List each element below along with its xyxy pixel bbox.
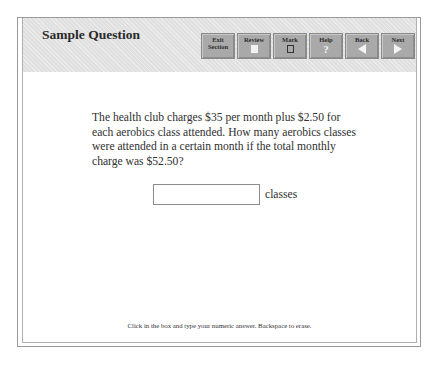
answer-row: classes [153, 184, 297, 205]
help-label: Help [319, 36, 332, 43]
next-label: Next [392, 36, 405, 43]
help-button[interactable]: Help ? [309, 33, 343, 59]
page-title: Sample Question [42, 27, 140, 43]
exit-label-line2: Section [208, 43, 228, 50]
mark-label: Mark [282, 36, 298, 43]
numeric-answer-input[interactable] [153, 184, 260, 205]
header-bar: Sample Question Exit Section Review Mark… [23, 18, 416, 72]
back-label: Back [355, 36, 369, 43]
next-button[interactable]: Next [381, 33, 415, 59]
arrow-right-icon [394, 44, 402, 54]
mark-button[interactable]: Mark [273, 33, 307, 59]
instructions-text: Click in the box and type your numeric a… [23, 322, 416, 329]
document-icon [251, 44, 258, 54]
arrow-left-icon [358, 44, 366, 54]
review-button[interactable]: Review [237, 33, 271, 59]
review-label: Review [244, 36, 264, 43]
question-window: Sample Question Exit Section Review Mark… [17, 17, 421, 347]
exit-section-button[interactable]: Exit Section [201, 33, 235, 59]
answer-unit-label: classes [265, 188, 297, 201]
back-button[interactable]: Back [345, 33, 379, 59]
toolbar: Exit Section Review Mark Help ? Back [201, 33, 415, 59]
exit-label-line1: Exit [212, 36, 224, 43]
question-frame: Sample Question Exit Section Review Mark… [22, 18, 417, 343]
question-icon: ? [323, 44, 329, 54]
checkbox-icon [287, 44, 294, 54]
question-text: The health club charges $35 per month pl… [92, 111, 362, 169]
